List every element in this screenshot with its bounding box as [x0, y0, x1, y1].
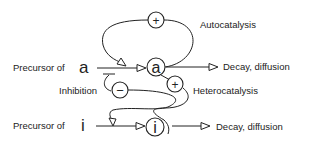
decay-i-label: Decay, diffusion [216, 121, 283, 132]
decay-a-label: Decay, diffusion [223, 61, 290, 72]
autocatalysis-loop-left [103, 20, 148, 63]
svg-text:+: + [152, 14, 159, 28]
autocatalysis-label: Autocatalysis [200, 19, 256, 30]
svg-text:+: + [171, 78, 178, 92]
reaction-diagram: + a − + i Precursor of a Precursor of i … [0, 0, 309, 143]
inhibition-minus-node: − [112, 82, 128, 98]
autocatalysis-loop-right [164, 20, 193, 67]
heterocatalysis-plus-node: + [167, 76, 183, 92]
heterocatalysis-label: Heterocatalysis [193, 85, 258, 96]
precursor-a-symbol: a [79, 58, 89, 77]
svg-text:a: a [152, 59, 161, 76]
precursor-a-arrowhead [137, 65, 146, 72]
inhibition-label: Inhibition [59, 85, 97, 96]
svg-text:−: − [116, 83, 124, 98]
decay-a-arrowhead [209, 64, 218, 71]
autocatalysis-arrowhead [117, 58, 126, 66]
precursor-i-symbol: i [81, 116, 85, 135]
inhibition-path-to-bar [104, 75, 111, 91]
inhibitor-node: i [146, 118, 164, 136]
precursor-i-label: Precursor of [13, 120, 65, 131]
autocatalysis-plus-node: + [148, 12, 164, 28]
precursor-i-arrowhead [136, 123, 145, 130]
decay-i-arrowhead [201, 123, 210, 130]
activator-node: a [147, 58, 165, 76]
svg-text:i: i [153, 119, 157, 136]
inhibitor-feedback-arrowhead [109, 118, 116, 126]
precursor-a-label: Precursor of [13, 62, 65, 73]
